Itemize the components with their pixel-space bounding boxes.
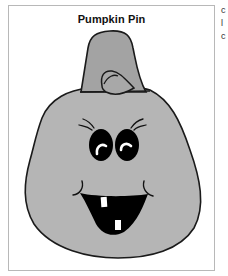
tooth-upper xyxy=(101,197,108,207)
pumpkin-illustration xyxy=(0,0,228,276)
right-eye-icon xyxy=(115,129,139,161)
left-eye-icon xyxy=(89,129,113,161)
tooth-lower xyxy=(115,220,121,230)
